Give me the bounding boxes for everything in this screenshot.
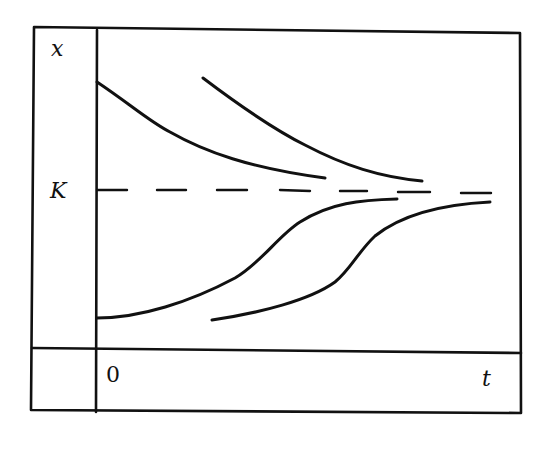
equilibrium-dashed-line xyxy=(97,190,491,193)
outer-frame xyxy=(31,27,521,413)
logistic-solutions-diagram: x K 0 t xyxy=(0,0,550,451)
t-axis-horizontal-divider xyxy=(32,348,521,353)
curve-upper-right xyxy=(203,78,422,181)
diagram-canvas xyxy=(0,0,550,451)
curve-lower-right xyxy=(212,202,490,320)
origin-label: 0 xyxy=(106,364,120,386)
y-axis-label: x xyxy=(51,38,63,60)
x-axis-label: t xyxy=(482,368,491,390)
curve-lower-left xyxy=(97,199,397,318)
equilibrium-label: K xyxy=(50,180,66,202)
curve-upper-left xyxy=(97,82,325,178)
x-axis-vertical-divider xyxy=(96,30,97,412)
